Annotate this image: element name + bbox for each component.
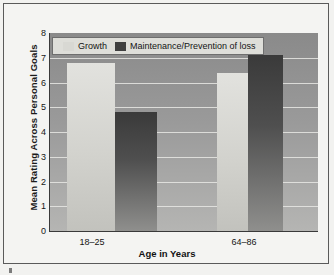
legend-entry-growth: Growth — [63, 41, 107, 51]
chart-figure: Mean Rating Across Personal Goals 8 7 6 … — [0, 0, 334, 275]
y-tick-label: 2 — [32, 177, 46, 187]
bar-growth-64-86 — [217, 73, 248, 231]
x-tick-label-64-86: 64–86 — [231, 237, 256, 247]
legend-label: Growth — [78, 41, 107, 51]
bar-maintenance-64-86 — [248, 55, 283, 231]
y-axis-tick-labels: 8 7 6 5 4 3 2 1 0 — [30, 4, 46, 265]
chart-legend: Growth Maintenance/Prevention of loss — [52, 37, 264, 55]
y-tick-label: 6 — [32, 78, 46, 88]
legend-label: Maintenance/Prevention of loss — [130, 41, 256, 51]
y-tick-label: 8 — [32, 28, 46, 38]
legend-swatch-icon — [63, 42, 74, 51]
y-tick-label: 1 — [32, 201, 46, 211]
plot-area — [49, 33, 318, 232]
y-tick-label: 5 — [32, 102, 46, 112]
y-tick-label: 4 — [32, 127, 46, 137]
legend-entry-maintenance: Maintenance/Prevention of loss — [115, 41, 256, 51]
x-tick-label-18-25: 18–25 — [79, 237, 104, 247]
bar-growth-18-25 — [67, 63, 115, 231]
chart-frame: Mean Rating Across Personal Goals 8 7 6 … — [3, 3, 329, 264]
y-tick-label: 3 — [32, 152, 46, 162]
corner-mark-icon — [9, 268, 12, 273]
legend-swatch-icon — [115, 42, 126, 51]
x-axis-title: Age in Years — [0, 248, 334, 259]
y-tick-label: 0 — [32, 226, 46, 236]
y-tick-label: 7 — [32, 53, 46, 63]
bar-maintenance-18-25 — [115, 112, 157, 231]
